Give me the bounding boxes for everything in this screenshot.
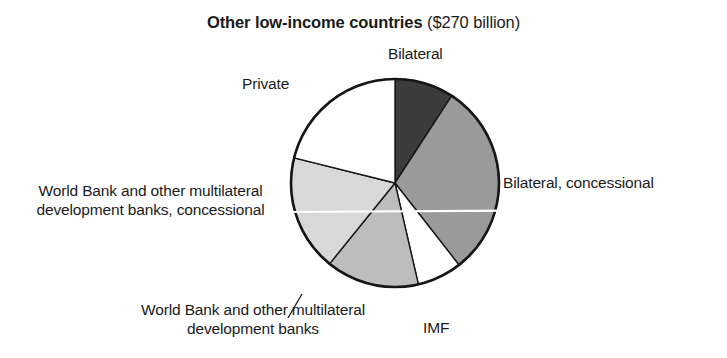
- slice-label-world-bank: World Bank and other multilateral develo…: [128, 300, 378, 338]
- pie-chart-figure: Other low-income countries ($270 billion…: [0, 0, 727, 358]
- slice-label-bilateral: Bilateral: [388, 44, 443, 63]
- slice-label-private: Private: [242, 74, 289, 93]
- slice-label-imf: IMF: [423, 318, 449, 337]
- pie-slices-group: [291, 79, 499, 287]
- slice-label-bilateral-concessional: Bilateral, concessional: [503, 173, 654, 192]
- slice-label-world-bank-concessional: World Bank and other multilateral develo…: [18, 181, 283, 219]
